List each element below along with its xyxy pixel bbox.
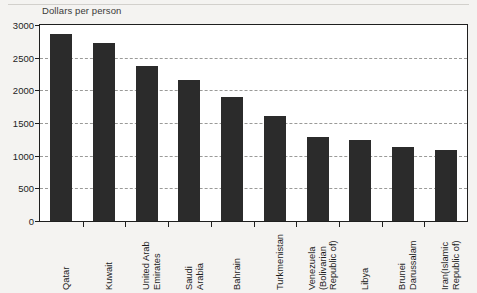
x-tick-mark [211,222,212,227]
y-tick-mark [35,188,40,189]
y-tick-mark [35,156,40,157]
bar [50,34,72,222]
y-tick-mark [35,25,40,26]
y-tick-label: 0 [0,216,34,227]
bar [392,147,414,221]
x-tick-label: Brunei Darussalam [397,230,418,290]
x-tick-label: Qatar [61,230,72,290]
x-tick-label: Iran(Islamic Republic of) [440,230,461,290]
x-tick-mark [168,222,169,227]
bar [221,97,243,221]
x-tick-label: Saudi Arabia [184,230,205,290]
x-tick-label: Libya [360,230,371,290]
y-tick-mark [35,58,40,59]
bar [93,43,115,221]
bar [349,140,371,221]
bar [435,150,457,221]
x-tick-label: United Arab Emirates [141,230,162,290]
y-tick-label: 1500 [0,118,34,129]
plot-area [39,24,468,222]
y-tick-label: 500 [0,183,34,194]
x-tick-label: Kuwait [104,230,115,290]
x-tick-label: Venezuela (Bolivarian Republic of) [307,230,339,290]
bar [136,66,158,221]
y-tick-mark [35,221,40,222]
y-tick-label: 2000 [0,85,34,96]
x-tick-mark [296,222,297,227]
x-tick-label: Bahrain [232,230,243,290]
x-tick-label: Turkmenistan [275,230,286,290]
x-tick-mark [382,222,383,227]
x-tick-mark [83,222,84,227]
x-tick-mark [339,222,340,227]
y-tick-label: 3000 [0,20,34,31]
x-tick-mark [125,222,126,227]
y-tick-mark [35,90,40,91]
x-tick-mark [254,222,255,227]
bar [264,116,286,221]
y-tick-label: 2500 [0,52,34,63]
bar [178,80,200,221]
chart-figure: Dollars per person 050010001500200025003… [0,0,477,293]
bar [307,137,329,221]
y-axis-title: Dollars per person [42,5,121,16]
y-tick-mark [35,123,40,124]
x-tick-mark [424,222,425,227]
y-tick-label: 1000 [0,150,34,161]
